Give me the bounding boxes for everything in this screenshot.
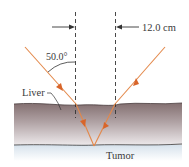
tumor-label: Tumor: [106, 150, 135, 161]
dimension-indicator: 12.0 cm: [52, 22, 176, 33]
dimension-arrow-left-icon: [116, 25, 122, 30]
angle-label: 50.0°: [46, 51, 68, 62]
ultrasound-reflection-diagram: 12.0 cm 50.0° Liver Tumor: [0, 0, 189, 167]
sub-boundary-glow: [14, 145, 182, 161]
dimension-arrow-right-icon: [69, 25, 75, 30]
dimension-label: 12.0 cm: [142, 22, 176, 33]
liver-label: Liver: [22, 87, 45, 98]
ray-arrowhead-icon: [56, 83, 63, 91]
angle-arc: [48, 62, 75, 72]
